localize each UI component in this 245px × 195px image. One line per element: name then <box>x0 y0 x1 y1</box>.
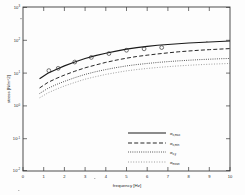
x-tick-label: 4 <box>105 174 108 179</box>
legend-label-sigma-xy: σx,y <box>170 150 177 157</box>
data-point-marker <box>160 46 164 50</box>
y-tick-label: 100 <box>14 103 21 109</box>
scan-artifact <box>18 190 19 191</box>
y-axis-ticks <box>23 8 230 171</box>
x-tick-label: 10 <box>228 174 233 179</box>
x-axis-tick-labels: 0 1 2 3 4 5 6 7 8 9 10 <box>22 174 233 179</box>
legend-label-sigma-xmax: σx,max <box>170 131 181 138</box>
x-axis-ticks <box>23 7 230 171</box>
series-line-sigma-xmax <box>40 41 230 79</box>
data-point-marker <box>47 69 51 73</box>
y-axis-tick-labels: 103 102 101 100 10-1 10-2 <box>13 4 21 173</box>
x-tick-label: 0 <box>22 174 25 179</box>
y-tick-label: 101 <box>14 70 21 76</box>
y-tick-label: 103 <box>14 4 21 10</box>
x-tick-label: 3 <box>84 174 87 179</box>
legend: σx,max σx,min σx,y σmean <box>128 131 181 167</box>
scan-artifact <box>20 18 22 19</box>
legend-label-sigma-xmin: σx,min <box>170 141 180 148</box>
series-line-sigma-mean <box>40 63 230 97</box>
x-tick-label: 8 <box>187 174 190 179</box>
x-tick-label: 6 <box>146 174 149 179</box>
x-tick-label: 7 <box>167 174 170 179</box>
data-point-markers <box>47 46 164 73</box>
series-line-sigma-xy <box>40 58 230 93</box>
legend-label-sigma-mean: σmean <box>170 160 180 167</box>
y-tick-label: 102 <box>14 37 21 43</box>
y-axis-title: stress [N/m^2] <box>6 75 11 103</box>
x-tick-label: 9 <box>208 174 211 179</box>
x-tick-label: 1 <box>43 174 46 179</box>
y-tick-label: 10-2 <box>13 167 21 173</box>
series-line-sigma-xmin <box>40 49 230 88</box>
x-tick-label: 5 <box>125 174 128 179</box>
x-axis-title: frequency [Hz] <box>113 183 141 188</box>
figure-container: 103 102 101 100 10-1 10-2 <box>0 0 245 195</box>
chart-svg: 103 102 101 100 10-1 10-2 <box>0 0 245 195</box>
data-series-group <box>40 41 230 98</box>
scan-artifact <box>94 178 95 179</box>
plot-frame <box>23 7 230 171</box>
y-tick-label: 10-1 <box>13 136 21 142</box>
x-tick-label: 2 <box>63 174 66 179</box>
data-point-marker <box>142 47 146 51</box>
